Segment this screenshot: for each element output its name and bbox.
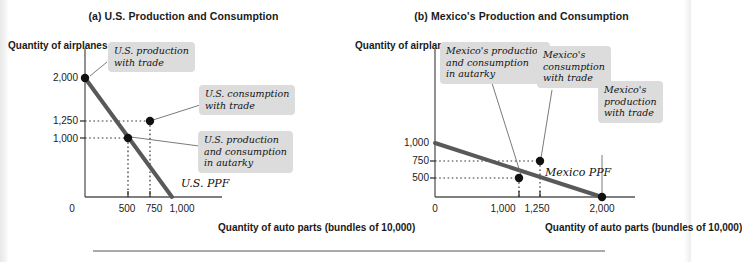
panel-b-ppf-label: Mexico PPF	[545, 166, 611, 179]
panel-a-point-consumption-with-trade	[146, 117, 154, 125]
panel-b-x-axis-title: Quantity of auto parts (bundles of 10,00…	[545, 222, 742, 234]
callout-us-autarky: U.S. production and consumption in autar…	[198, 131, 293, 173]
panel-a-leader-autarky	[131, 137, 199, 146]
callout-mexico-autarky: Mexico's production and consumption in a…	[440, 42, 550, 84]
panel-a-point-autarky	[124, 134, 132, 142]
panel-a-point-production-with-trade	[81, 74, 89, 82]
chart-panel-mexico: (b) Mexico's Production and Consumption …	[345, 0, 690, 235]
bottom-divider-rule	[93, 250, 605, 252]
panel-b-point-autarky	[515, 174, 523, 182]
panel-b-point-consumption-with-trade	[536, 157, 544, 165]
callout-us-production-with-trade: U.S. production with trade	[108, 42, 195, 72]
chart-panel-us: (a) U.S. Production and Consumption Quan…	[0, 0, 345, 235]
panel-b-point-production-with-trade	[598, 193, 606, 201]
callout-us-consumption-with-trade: U.S. consumption with trade	[199, 85, 295, 115]
callout-mexico-production-with-trade: Mexico's production with trade	[598, 81, 663, 123]
panel-a-leader-production	[90, 62, 107, 76]
panel-a-ppf-label: U.S. PPF	[181, 177, 229, 190]
panel-a-leader-consumption	[153, 105, 200, 120]
panel-b-leader-consumption	[541, 90, 552, 158]
